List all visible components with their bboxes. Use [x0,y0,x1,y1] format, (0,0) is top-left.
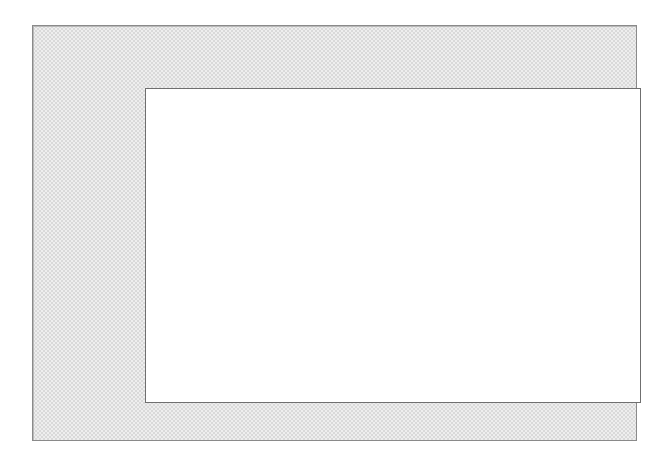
x-axis-tick-labels [145,407,641,427]
plot-area [145,88,641,403]
y-axis-tick-labels [93,88,141,403]
normal-probability-plot-screenshot [0,0,668,465]
scatter-plot-canvas [146,89,640,402]
figure-panel [32,25,637,441]
